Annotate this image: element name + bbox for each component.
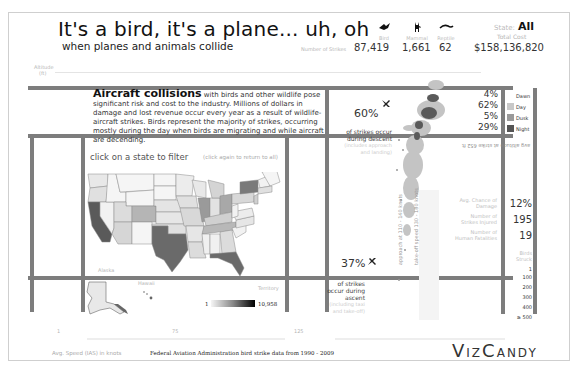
reptile-count: 62 <box>439 42 452 53</box>
state-hi-2 <box>146 293 148 295</box>
map-title: click on a state to filter <box>90 152 188 162</box>
state-ga <box>220 230 236 254</box>
state-nj <box>254 194 258 204</box>
state-ny <box>240 180 258 194</box>
state-wa <box>88 174 108 188</box>
state-nd <box>154 174 176 186</box>
map-legend-min: 1 <box>205 301 209 307</box>
grid-bar-v1 <box>30 134 34 312</box>
reptile-label: Reptile <box>426 35 466 41</box>
deer-icon[interactable] <box>402 21 432 33</box>
map-color-scale <box>211 300 255 307</box>
total-cost-value: $158,136,820 <box>474 42 544 53</box>
vizcandy-logo[interactable]: VIZCANDY <box>452 340 538 361</box>
alaska-hawaii-map[interactable] <box>84 280 154 316</box>
plane-ascent-icon <box>367 257 377 267</box>
state-mi <box>208 180 224 198</box>
ascent-caption: of strikes occur during ascent (includin… <box>325 280 365 315</box>
speed-axis-label: Avg. Speed (IAS) in knots <box>52 350 121 356</box>
state-mn <box>176 174 194 196</box>
stat-fatalities-label: Number of Human Fatalities <box>455 229 497 241</box>
legend-swatch-dawn[interactable] <box>507 92 514 99</box>
stat-damage-value: 12% <box>505 198 532 209</box>
intro-lead: Aircraft collisions <box>93 87 202 100</box>
legend-label-day[interactable]: Day <box>516 104 526 110</box>
state-nm <box>132 222 152 244</box>
legend-swatch-night[interactable] <box>507 125 514 132</box>
legend-swatch-day[interactable] <box>507 103 514 110</box>
legend-swatch-dusk[interactable] <box>507 114 514 121</box>
state-ia <box>176 196 198 208</box>
descent-caption: of strikes occur during descent (include… <box>335 128 392 156</box>
mammal-count: 1,661 <box>402 42 431 53</box>
territories-label: Territory <box>258 285 279 291</box>
page-subtitle: when planes and animals collide <box>62 40 233 52</box>
bird-count: 87,419 <box>354 42 389 53</box>
stat-injured-value: 195 <box>505 214 532 225</box>
state-wi <box>192 180 206 198</box>
state-ar <box>186 226 204 242</box>
speed-tick-1: 1 <box>57 328 60 334</box>
state-wy <box>126 190 154 206</box>
reptile-icon[interactable] <box>431 21 461 33</box>
avg-altitude-label: avg altitude at strike 652 ft <box>462 143 530 149</box>
state-ak <box>87 282 124 314</box>
us-state-map[interactable] <box>86 172 286 276</box>
state-az <box>112 222 132 244</box>
state-wv <box>232 204 238 218</box>
speed-tick-75: 75 <box>172 328 178 334</box>
altitude-axis-unit: (ft) <box>39 70 47 76</box>
speed-tick-125: 125 <box>294 328 304 334</box>
speed-axis-arrow <box>87 338 285 340</box>
state-oh <box>220 194 232 214</box>
legend-label-dawn[interactable]: Dawn <box>516 93 530 99</box>
stat-injured-label: Number of Strikes Injured <box>455 213 497 225</box>
bird-icon[interactable] <box>369 21 399 33</box>
page-title: It's a bird, it's a plane... uh, oh <box>58 17 369 41</box>
map-legend-max: 10,958 <box>258 301 277 307</box>
birds-struck-label: Birds Struck <box>510 250 532 262</box>
state-or <box>88 186 108 202</box>
state-al <box>210 234 220 254</box>
total-cost-label: Total Cost <box>497 33 526 40</box>
state-value[interactable]: All <box>518 20 534 33</box>
stat-fatalities-value: 19 <box>505 230 532 241</box>
state-ks <box>156 212 184 224</box>
state-co <box>132 206 156 222</box>
ascent-percent: 37% <box>341 257 365 270</box>
state-sd <box>154 186 176 200</box>
approach-speed-label: approach at 110 - 140 knots <box>397 194 403 265</box>
top-guide-line <box>55 72 481 73</box>
grid-bar-v6 <box>533 88 537 314</box>
state-fl <box>210 252 244 276</box>
map-hint: (click again to return to all) <box>203 154 278 160</box>
strikes-label: Number of Strikes <box>301 46 346 52</box>
data-source: Federal Aviation Administration bird str… <box>150 350 334 356</box>
stat-damage-label: Avg. Chance of Damage <box>455 197 497 209</box>
legend-label-dusk[interactable]: Dusk <box>516 115 529 121</box>
legend-label-night[interactable]: Night <box>516 126 529 132</box>
state-mt <box>116 174 154 192</box>
state-label: State: <box>494 24 515 32</box>
descent-percent: 60% <box>354 107 378 120</box>
state-hi-3 <box>150 297 153 300</box>
state-hi-1 <box>143 291 145 293</box>
takeoff-speed-label: take-off speed 130 - 180 knots <box>413 188 419 265</box>
time-of-day-percents: 4% 62% 5% 29% <box>476 89 498 133</box>
alaska-label: Alaska <box>98 267 114 273</box>
intro-paragraph: Aircraft collisions with birds and other… <box>93 89 333 145</box>
